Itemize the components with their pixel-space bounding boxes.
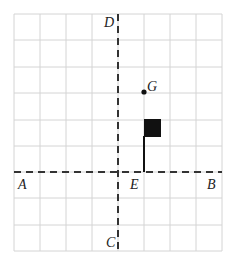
point-G [141, 89, 146, 94]
grid [14, 14, 222, 251]
flag-square [144, 119, 161, 137]
label-G: G [147, 79, 157, 94]
diagram-canvas: D G A E B C [0, 0, 231, 267]
label-E: E [129, 177, 139, 192]
label-C: C [106, 235, 116, 250]
label-A: A [17, 177, 27, 192]
label-B: B [207, 177, 216, 192]
label-D: D [103, 15, 114, 30]
